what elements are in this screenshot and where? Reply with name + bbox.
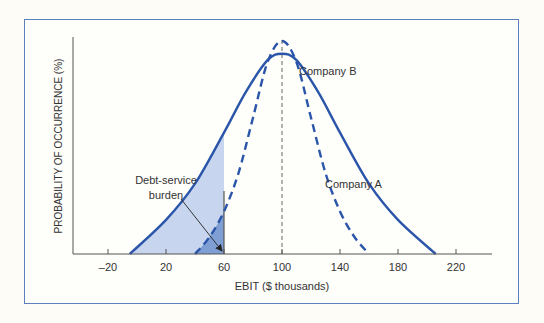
x-tick-label: 140: [331, 261, 349, 273]
x-tick-label: 60: [218, 261, 230, 273]
x-tick-label: 180: [389, 261, 407, 273]
company-b-label: Company B: [299, 65, 356, 77]
x-tick-label: –20: [99, 261, 117, 273]
x-tick-label: 20: [160, 261, 172, 273]
debt-service-label-line1: Debt-service: [135, 174, 197, 186]
x-tick-label: 100: [273, 261, 291, 273]
x-axis-title: EBIT ($ thousands): [235, 280, 330, 292]
debt-service-label-line2: burden: [149, 189, 183, 201]
x-tick-label: 220: [447, 261, 465, 273]
company-a-label: Company A: [325, 178, 383, 190]
shaded-region: [130, 41, 436, 254]
ebit-distribution-chart: –202060100140180220 Debt-service burden …: [0, 0, 544, 323]
y-axis-title: PROBABILITY OF OCCURRENCE (%): [53, 59, 64, 234]
